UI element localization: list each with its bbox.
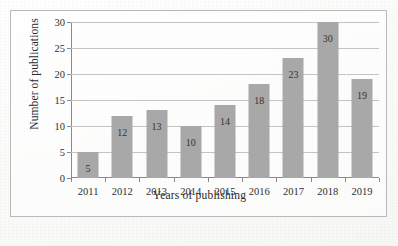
bar-value-label: 19	[357, 90, 367, 101]
x-axis-tick-mark	[71, 178, 72, 182]
bar-value-label: 18	[254, 95, 264, 106]
x-axis-tick-mark	[311, 178, 312, 182]
bar-value-label: 13	[152, 121, 162, 132]
bar-group[interactable]: 102014	[174, 22, 208, 178]
bar-value-label: 10	[186, 137, 196, 148]
bar-group[interactable]: 132013	[139, 22, 173, 178]
bar-group[interactable]: 142015	[208, 22, 242, 178]
x-axis-tick-label: 2018	[317, 186, 338, 197]
x-axis-tick-label: 2019	[351, 186, 372, 197]
x-axis-tick-mark	[276, 178, 277, 182]
x-axis-tick-label: 2013	[146, 186, 167, 197]
x-axis-tick-mark	[345, 178, 346, 182]
x-axis-tick-mark	[379, 178, 380, 182]
bar[interactable]	[317, 22, 338, 178]
y-axis-tick-label: 15	[55, 95, 66, 106]
y-axis-tick-label: 20	[55, 69, 66, 80]
x-axis-tick-mark	[208, 178, 209, 182]
x-axis-tick-mark	[174, 178, 175, 182]
x-axis-tick-label: 2016	[249, 186, 270, 197]
plot-area: 051015202530 520111220121320131020141420…	[71, 22, 379, 178]
bar-value-label: 23	[288, 69, 298, 80]
bar-chart-figure: Number of publications Years of publishi…	[0, 0, 398, 246]
y-axis-tick-label: 0	[60, 173, 65, 184]
chart-frame: Number of publications Years of publishi…	[10, 10, 387, 217]
x-axis-tick-mark	[105, 178, 106, 182]
y-axis-tick-label: 5	[60, 147, 65, 158]
y-axis-title: Number of publications	[28, 4, 40, 144]
bar[interactable]	[180, 126, 201, 178]
bar-group[interactable]: 52011	[71, 22, 105, 178]
x-axis-tick-label: 2014	[180, 186, 201, 197]
bar-value-label: 14	[220, 116, 230, 127]
bar-value-label: 5	[86, 163, 91, 174]
bar-group[interactable]: 232017	[276, 22, 310, 178]
x-axis-tick-label: 2012	[112, 186, 133, 197]
bar[interactable]	[112, 116, 133, 178]
x-axis-tick-label: 2011	[78, 186, 99, 197]
y-axis-tick-label: 25	[55, 43, 66, 54]
x-axis-tick-label: 2015	[214, 186, 235, 197]
bar-group[interactable]: 192019	[345, 22, 379, 178]
bar-group[interactable]: 302018	[311, 22, 345, 178]
bar-group[interactable]: 182016	[242, 22, 276, 178]
y-axis-tick-label: 10	[55, 121, 66, 132]
y-axis-tick-label: 30	[55, 17, 66, 28]
bar-value-label: 30	[323, 33, 333, 44]
x-axis-tick-mark	[242, 178, 243, 182]
x-axis-tick-mark	[139, 178, 140, 182]
bar-group[interactable]: 122012	[105, 22, 139, 178]
bar-value-label: 12	[117, 127, 127, 138]
x-axis-tick-label: 2017	[283, 186, 304, 197]
